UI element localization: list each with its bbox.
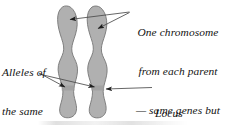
label-line: from each parent bbox=[131, 65, 225, 78]
label-line: Locus bbox=[155, 107, 183, 120]
label-line: the same bbox=[2, 105, 72, 118]
label-alleles-of-the-same-gene: Alleles of the same gene bbox=[2, 40, 72, 126]
right-chromosome bbox=[87, 6, 107, 118]
label-line: Alleles of bbox=[2, 66, 72, 79]
chromosome-diagram: One chromosome from each parent — same g… bbox=[0, 0, 225, 126]
label-line: One chromosome bbox=[131, 26, 225, 39]
right-locus-band bbox=[91, 85, 104, 90]
label-locus: Locus bbox=[155, 81, 183, 126]
